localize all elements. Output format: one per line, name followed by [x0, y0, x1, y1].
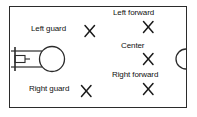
free-throw-circle-icon — [40, 47, 65, 72]
position-label-right-guard: Right guard — [29, 84, 69, 93]
center-circle-arc-icon — [176, 49, 186, 69]
marker-left-guard — [85, 26, 95, 37]
court-markings — [0, 0, 197, 117]
position-label-left-forward: Left forward — [113, 8, 154, 17]
position-label-right-forward: Right forward — [112, 70, 158, 79]
position-label-center: Center — [121, 41, 144, 50]
marker-right-guard — [82, 86, 92, 97]
marker-right-forward — [144, 84, 154, 95]
marker-left-forward — [144, 22, 154, 33]
court-diagram-screenshot: Left guard Right guard Left forward Cent… — [0, 0, 197, 117]
marker-center — [144, 54, 154, 65]
hoop-icon — [15, 56, 30, 63]
position-label-left-guard: Left guard — [31, 24, 66, 33]
